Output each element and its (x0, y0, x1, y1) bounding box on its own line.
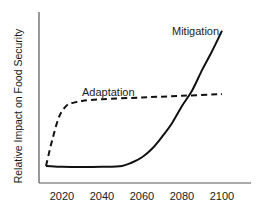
adaptation-label: Adaptation (82, 86, 135, 98)
y-axis-label: Relative Impact on Food Security (12, 28, 24, 183)
adaptation-line (46, 94, 222, 166)
mitigation-label: Mitigation (172, 25, 219, 37)
x-tick-2060: 2060 (130, 190, 154, 202)
mitigation-line (46, 31, 222, 167)
food-security-chart: Relative Impact on Food Security 2020204… (0, 0, 264, 211)
x-tick-2100: 2100 (210, 190, 234, 202)
x-tick-labels: 20202040206020802100 (50, 190, 234, 202)
x-tick-2080: 2080 (170, 190, 194, 202)
x-tick-2020: 2020 (50, 190, 74, 202)
x-tick-2040: 2040 (90, 190, 114, 202)
